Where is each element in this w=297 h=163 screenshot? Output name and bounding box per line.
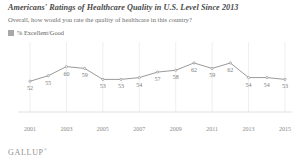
data-label: 53: [282, 83, 288, 89]
data-point: [65, 66, 67, 68]
legend-swatch-icon: [8, 30, 14, 36]
x-axis-tick-label: 2009: [170, 126, 182, 132]
data-point: [266, 76, 268, 78]
data-label: 54: [246, 82, 252, 88]
plot-area: 525560595353545758625962545453: [0, 42, 297, 122]
data-point: [229, 62, 231, 64]
data-label: 62: [191, 67, 197, 73]
data-label: 54: [264, 82, 270, 88]
x-axis-tick-label: 2013: [243, 126, 255, 132]
data-point: [175, 69, 177, 71]
data-point: [102, 78, 104, 80]
x-axis-tick-label: 2001: [24, 126, 36, 132]
data-label: 58: [173, 74, 179, 80]
x-axis-tick-label: 2015: [279, 126, 291, 132]
data-label: 57: [155, 76, 161, 82]
data-label: 59: [82, 72, 88, 78]
data-label: 52: [27, 85, 33, 91]
page-title: Americans' Ratings of Healthcare Quality…: [8, 3, 238, 12]
data-point: [156, 71, 158, 73]
data-label: 54: [136, 82, 142, 88]
legend-label: % Excellent/Good: [17, 29, 64, 36]
data-label: 60: [63, 71, 69, 77]
data-point: [120, 78, 122, 80]
registered-mark-icon: ®: [44, 147, 48, 152]
data-label: 62: [227, 67, 233, 73]
data-point: [138, 76, 140, 78]
x-axis: 20012003200520072009201120132015: [0, 126, 297, 138]
data-point: [284, 78, 286, 80]
x-axis-tick-label: 2011: [206, 126, 218, 132]
chart-legend: % Excellent/Good: [8, 29, 64, 36]
data-point: [84, 67, 86, 69]
line-chart-svg: 525560595353545758625962545453: [0, 42, 297, 122]
x-axis-tick-label: 2005: [97, 126, 109, 132]
x-axis-tick-label: 2007: [133, 126, 145, 132]
chart-container: Americans' Ratings of Healthcare Quality…: [0, 0, 297, 163]
gallup-logo: GALLUP®: [8, 147, 48, 157]
x-axis-tick-label: 2003: [60, 126, 72, 132]
data-label: 53: [100, 83, 106, 89]
data-point: [47, 75, 49, 77]
data-point: [247, 76, 249, 78]
data-label: 59: [209, 72, 215, 78]
data-label: 53: [118, 83, 124, 89]
gallup-logo-text: GALLUP: [8, 148, 44, 157]
data-label: 55: [45, 80, 51, 86]
chart-subtitle: Overall, how would you rate the quality …: [8, 16, 192, 23]
data-point: [29, 80, 31, 82]
data-point: [193, 62, 195, 64]
data-point: [211, 67, 213, 69]
